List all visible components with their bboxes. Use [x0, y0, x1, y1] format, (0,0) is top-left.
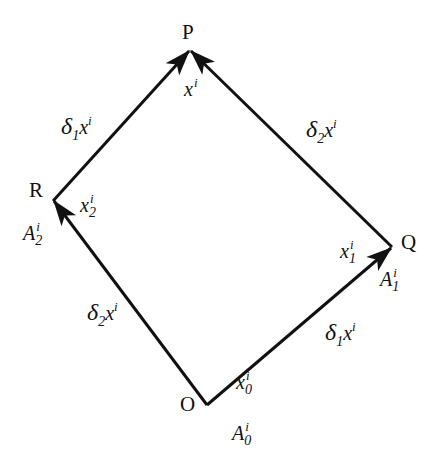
delta-symbol: δ	[87, 299, 98, 325]
coord-var: x	[236, 371, 245, 393]
edge-label-o-q: δ1xi	[325, 320, 356, 349]
edge-var: x	[79, 116, 88, 138]
edge-o-r	[54, 201, 207, 405]
vector-var: A	[23, 222, 35, 244]
vector-sup: i	[245, 419, 249, 434]
coord-var: x	[184, 78, 193, 100]
coord-sup: i	[350, 237, 354, 252]
coord-sub: 0	[245, 382, 252, 397]
coord-label-p: xi	[184, 76, 198, 99]
edge-label-r-p: δ1xi	[61, 114, 92, 143]
vector-var: A	[232, 422, 244, 444]
vector-sup: i	[393, 265, 397, 280]
delta-symbol: δ	[325, 319, 336, 345]
coord-label-q: x1i	[340, 238, 354, 266]
coord-sup: i	[246, 368, 250, 383]
edge-sup: i	[333, 116, 337, 131]
vector-label-r: A2i	[23, 220, 40, 248]
edge-var: x	[343, 322, 352, 344]
vertex-label-o: O	[180, 394, 195, 415]
edge-label-o-r: δ2xi	[87, 300, 118, 329]
vector-sup: i	[36, 219, 40, 234]
coord-var: x	[80, 194, 89, 216]
vector-var: A	[380, 268, 392, 290]
delta-symbol: δ	[306, 116, 317, 142]
parallelogram-diagram	[0, 0, 442, 456]
vector-label-q: A1i	[380, 266, 397, 294]
coord-sup: i	[194, 75, 198, 90]
edge-sup: i	[114, 299, 118, 314]
coord-var: x	[340, 240, 349, 262]
coord-label-o: x0i	[236, 369, 250, 397]
edge-var: x	[324, 119, 333, 141]
vector-sub: 0	[244, 433, 251, 448]
delta-symbol: δ	[61, 113, 72, 139]
vertex-label-p: P	[182, 22, 194, 43]
coord-sub: 2	[89, 205, 96, 220]
edge-sup: i	[88, 113, 92, 128]
coord-sub: 1	[349, 251, 356, 266]
edge-q-p	[191, 51, 392, 247]
coord-label-r: x2i	[80, 192, 94, 220]
edge-label-q-p: δ2xi	[306, 117, 337, 146]
vector-sub: 1	[392, 279, 399, 294]
vector-sub: 2	[35, 233, 42, 248]
edge-sup: i	[352, 319, 356, 334]
vertex-label-r: R	[29, 180, 43, 201]
edge-o-q	[207, 248, 391, 405]
vertex-label-q: Q	[401, 232, 416, 253]
coord-sup: i	[90, 191, 94, 206]
edge-var: x	[105, 302, 114, 324]
vector-label-o: A0i	[232, 420, 249, 448]
